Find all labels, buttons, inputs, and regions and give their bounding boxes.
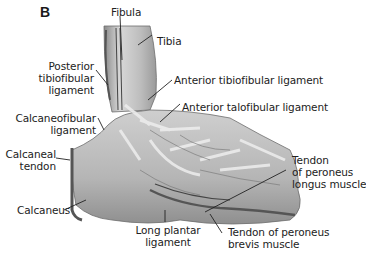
label-peroneus-brevis: Tendon of peroneus brevis muscle [228,226,329,250]
label-anterior-tibiofibular: Anterior tibiofibular ligament [174,74,323,86]
label-tibia: Tibia [157,35,182,47]
label-calcaneus: Calcaneus [17,204,70,216]
label-calcaneofibular: Calcaneofibular ligament [10,112,96,136]
panel-letter: B [40,4,50,20]
label-long-plantar: Long plantar ligament [133,224,203,248]
label-peroneus-longus: Tendon of peroneus longus muscle [292,154,366,190]
label-fibula: Fibula [111,6,141,18]
label-anterior-talofibular: Anterior talofibular ligament [182,101,328,113]
label-posterior-tibiofibular: Posterior tibiofibular ligament [38,60,94,96]
label-calcaneal-tendon: Calcaneal tendon [0,148,56,172]
